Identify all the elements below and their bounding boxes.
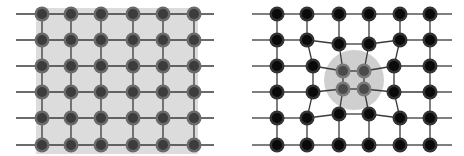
grid-node xyxy=(302,9,312,19)
grid-node xyxy=(425,113,435,123)
grid-node xyxy=(395,140,405,150)
grid-node xyxy=(425,9,435,19)
grid-node xyxy=(364,9,374,19)
grid-node xyxy=(334,39,344,49)
grid-node xyxy=(389,61,399,71)
grid-node xyxy=(425,140,435,150)
focus-node xyxy=(359,84,369,94)
grid-node xyxy=(302,35,312,45)
grid-node xyxy=(425,87,435,97)
grid-node xyxy=(272,140,282,150)
diagram-stage xyxy=(0,0,464,156)
focus-circle xyxy=(324,50,384,110)
grid-node xyxy=(395,35,405,45)
focus-node xyxy=(338,66,348,76)
grid-node xyxy=(425,61,435,71)
grid-node xyxy=(364,109,374,119)
grid-node xyxy=(272,113,282,123)
focus-node xyxy=(359,66,369,76)
grid-node xyxy=(395,9,405,19)
grid-node xyxy=(334,109,344,119)
grid-node xyxy=(272,35,282,45)
warped-grid-panel xyxy=(0,0,464,156)
grid-node xyxy=(364,39,374,49)
grid-node xyxy=(389,87,399,97)
grid-node xyxy=(272,87,282,97)
grid-node xyxy=(308,61,318,71)
grid-node xyxy=(364,140,374,150)
grid-node xyxy=(425,35,435,45)
grid-node xyxy=(334,9,344,19)
grid-node xyxy=(302,113,312,123)
grid-node xyxy=(334,140,344,150)
grid-node xyxy=(308,87,318,97)
grid-node xyxy=(302,140,312,150)
grid-node xyxy=(272,9,282,19)
focus-node xyxy=(338,84,348,94)
grid-node xyxy=(395,113,405,123)
grid-node xyxy=(272,61,282,71)
